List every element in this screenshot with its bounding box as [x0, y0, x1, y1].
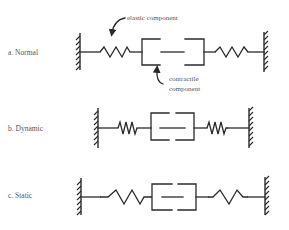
elastic-spring-right [208, 190, 248, 204]
row-label-dynamic: b. Dynamic [8, 124, 44, 133]
row-c-static: c. Static [8, 176, 269, 215]
elastic-arrow-icon [112, 18, 125, 33]
muscle-model-diagram: a. Normal [0, 0, 289, 230]
contractile-component [142, 39, 204, 65]
elastic-spring-left [100, 47, 130, 57]
right-wall-icon [249, 107, 253, 148]
elastic-component-label: elastic component [127, 14, 178, 22]
right-wall-icon [265, 176, 269, 215]
elastic-spring-right [207, 122, 228, 134]
contractile-component [152, 184, 196, 210]
elastic-spring-right [215, 47, 248, 57]
contractile-component [151, 113, 194, 140]
row-b-dynamic: b. Dynamic [8, 107, 253, 148]
row-label-static: c. Static [8, 191, 33, 200]
row-label-normal: a. Normal [8, 48, 38, 57]
contractile-arrow-icon [157, 69, 163, 84]
right-wall-icon [264, 31, 268, 72]
elastic-spring-left [118, 122, 137, 134]
contractile-component-label-line2: component [169, 85, 200, 93]
elastic-spring-left [100, 190, 152, 204]
row-a-normal: a. Normal [8, 14, 268, 93]
contractile-component-label-line1: contractile [169, 75, 199, 83]
